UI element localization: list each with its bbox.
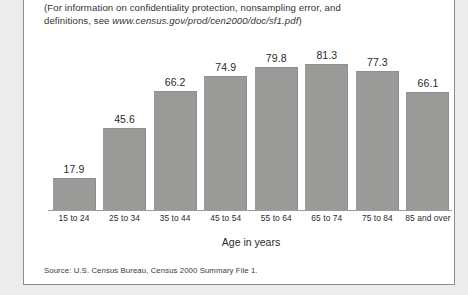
bar-value-label: 66.2 — [165, 76, 186, 88]
bar-item: 66.1 — [405, 29, 451, 210]
note-line-1: (For information on confidentiality prot… — [44, 2, 341, 13]
bar-chart: 17.945.666.274.979.881.377.366.1 — [51, 29, 451, 211]
x-tick-label: 15 to 24 — [51, 213, 97, 224]
bar-item: 45.6 — [102, 29, 148, 210]
source-note: Source: U.S. Census Bureau, Census 2000 … — [44, 266, 258, 275]
bar-item: 77.3 — [354, 29, 400, 210]
census-url-text: www.census.gov/prod/cen2000/doc/sf1.pdf — [112, 15, 298, 26]
bar-value-label: 81.3 — [316, 49, 337, 61]
bar-item: 74.9 — [203, 29, 249, 210]
x-tick-label: 85 and over — [405, 213, 451, 224]
x-tick-label: 75 to 84 — [354, 213, 400, 224]
bar-rect — [103, 128, 146, 210]
x-axis-line — [48, 210, 452, 211]
page-content: (For information on confidentiality prot… — [24, 0, 454, 284]
bar-rect — [204, 76, 247, 210]
bar-item: 66.2 — [152, 29, 198, 210]
bar-rect — [53, 178, 96, 210]
bar-item: 79.8 — [253, 29, 299, 210]
bar-value-label: 45.6 — [114, 113, 135, 125]
bar-value-label: 66.1 — [418, 77, 439, 89]
bar-rect — [356, 71, 399, 210]
bar-item: 81.3 — [304, 29, 350, 210]
x-axis-title: Age in years — [51, 236, 451, 248]
x-tick-label: 55 to 64 — [253, 213, 299, 224]
bar-group: 17.945.666.274.979.881.377.366.1 — [51, 29, 451, 210]
x-tick-label: 35 to 44 — [152, 213, 198, 224]
bar-item: 17.9 — [51, 29, 97, 210]
x-tick-label: 65 to 74 — [304, 213, 350, 224]
plot-area: 17.945.666.274.979.881.377.366.1 — [51, 29, 451, 211]
bar-value-label: 74.9 — [215, 61, 236, 73]
bar-value-label: 17.9 — [64, 163, 85, 175]
bar-rect — [154, 91, 197, 210]
bar-rect — [305, 64, 348, 210]
bar-rect — [406, 92, 449, 210]
note-line-2-suffix: ) — [298, 15, 301, 26]
x-tick-label: 25 to 34 — [102, 213, 148, 224]
bar-value-label: 79.8 — [266, 52, 287, 64]
bar-value-label: 77.3 — [367, 56, 388, 68]
confidentiality-note: (For information on confidentiality prot… — [44, 1, 394, 27]
page-sheet: (For information on confidentiality prot… — [23, 0, 455, 285]
x-axis-tick-labels: 15 to 2425 to 3435 to 4445 to 5455 to 64… — [51, 213, 451, 224]
note-line-2-prefix: definitions, see — [44, 15, 112, 26]
bar-rect — [255, 67, 298, 210]
x-tick-label: 45 to 54 — [203, 213, 249, 224]
